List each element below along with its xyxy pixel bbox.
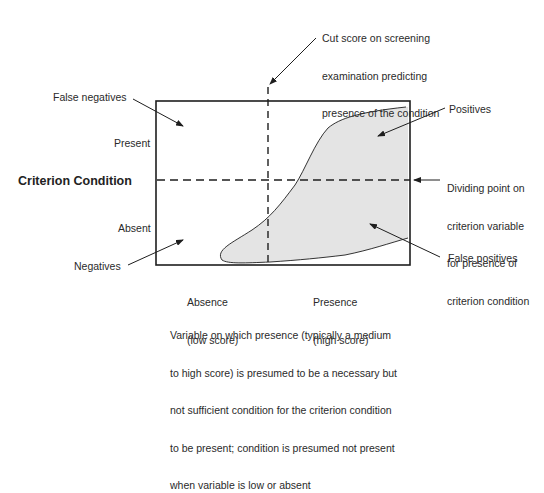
y-axis-title: Criterion Condition — [18, 174, 132, 188]
y-label-present: Present — [114, 137, 150, 150]
false-negatives-label: False negatives — [53, 91, 127, 104]
caption-line-4: to be present; condition is presumed not… — [170, 442, 397, 455]
cut-score-line-2: examination predicting — [322, 70, 439, 83]
negatives-label: Negatives — [74, 260, 121, 273]
cut-score-annotation: Cut score on screening examination predi… — [322, 7, 439, 132]
x-axis-caption: Variable on which presence (typically a … — [170, 304, 397, 493]
caption-line-1: Variable on which presence (typically a … — [170, 329, 397, 342]
dividing-point-line-2: criterion variable — [447, 220, 529, 233]
cut-score-line-1: Cut score on screening — [322, 32, 439, 45]
cut-score-line-3: presence of the condition — [322, 107, 439, 120]
false-positives-label: False positives — [448, 252, 517, 265]
dividing-point-line-1: Dividing point on — [447, 182, 529, 195]
caption-line-5: when variable is low or absent — [170, 479, 397, 492]
dividing-point-annotation: Dividing point on criterion variable for… — [447, 157, 529, 320]
positives-label: Positives — [449, 103, 491, 116]
cut-score-arrow — [270, 38, 316, 84]
dividing-point-line-4: criterion condition — [447, 295, 529, 308]
false-negatives-arrow — [133, 99, 183, 126]
caption-line-3: not sufficient condition for the criteri… — [170, 404, 397, 417]
caption-line-2: to high score) is presumed to be a neces… — [170, 367, 397, 380]
y-label-absent: Absent — [118, 222, 151, 235]
